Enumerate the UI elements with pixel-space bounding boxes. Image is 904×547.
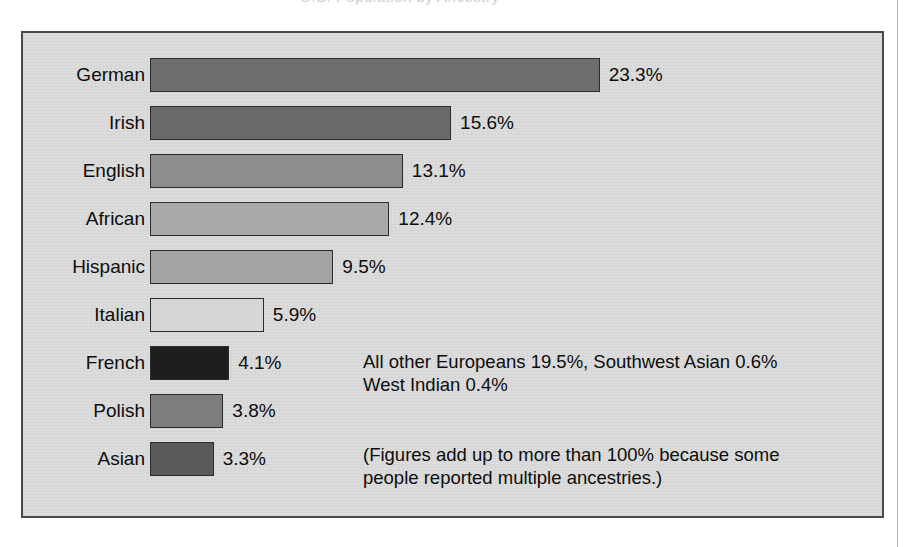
bar-value-hispanic: 9.5% bbox=[342, 250, 385, 284]
category-label-asian: Asian bbox=[0, 442, 145, 476]
scan-top-sliver: U.S. Population by Ancestry bbox=[0, 0, 904, 22]
bar-value-italian: 5.9% bbox=[273, 298, 316, 332]
bar-african bbox=[150, 202, 389, 236]
bar-value-german: 23.3% bbox=[609, 58, 663, 92]
bar-irish bbox=[150, 106, 451, 140]
bar-row: Italian5.9% bbox=[23, 298, 882, 332]
bar-row: Hispanic9.5% bbox=[23, 250, 882, 284]
bar-value-asian: 3.3% bbox=[223, 442, 266, 476]
annotation-footnote: (Figures add up to more than 100% becaus… bbox=[363, 443, 780, 489]
bar-row: Polish3.8% bbox=[23, 394, 882, 428]
bar-polish bbox=[150, 394, 223, 428]
category-label-italian: Italian bbox=[0, 298, 145, 332]
bar-row: English13.1% bbox=[23, 154, 882, 188]
category-label-german: German bbox=[0, 58, 145, 92]
category-label-english: English bbox=[0, 154, 145, 188]
bar-italian bbox=[150, 298, 264, 332]
category-label-french: French bbox=[0, 346, 145, 380]
category-label-polish: Polish bbox=[0, 394, 145, 428]
cropped-title-ghost: U.S. Population by Ancestry bbox=[300, 0, 499, 5]
bar-english bbox=[150, 154, 403, 188]
category-label-african: African bbox=[0, 202, 145, 236]
page-edge-rule bbox=[897, 0, 898, 547]
bar-value-irish: 15.6% bbox=[460, 106, 514, 140]
bar-value-french: 4.1% bbox=[238, 346, 281, 380]
bar-row: Irish15.6% bbox=[23, 106, 882, 140]
category-label-irish: Irish bbox=[0, 106, 145, 140]
bar-hispanic bbox=[150, 250, 333, 284]
annotation-other-ancestries: All other Europeans 19.5%, Southwest Asi… bbox=[363, 350, 777, 396]
bar-french bbox=[150, 346, 229, 380]
bar-german bbox=[150, 58, 600, 92]
category-label-hispanic: Hispanic bbox=[0, 250, 145, 284]
bar-value-polish: 3.8% bbox=[232, 394, 275, 428]
bar-value-english: 13.1% bbox=[412, 154, 466, 188]
bar-row: German23.3% bbox=[23, 58, 882, 92]
bar-asian bbox=[150, 442, 214, 476]
bar-value-african: 12.4% bbox=[398, 202, 452, 236]
bar-row: African12.4% bbox=[23, 202, 882, 236]
